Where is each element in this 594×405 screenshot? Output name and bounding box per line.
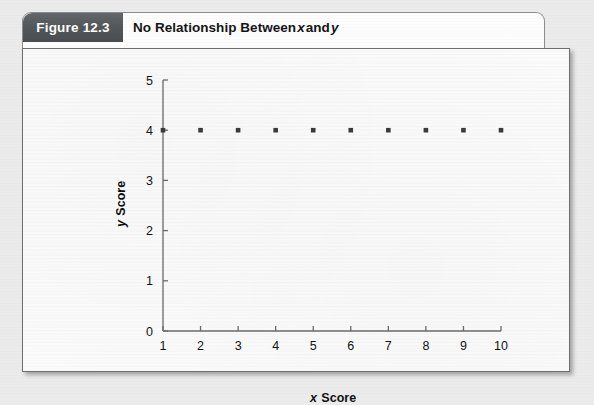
x-tick-label: 8 — [422, 339, 429, 353]
y-tick-label: 1 — [146, 274, 153, 288]
figure-number-chip: Figure 12.3 — [23, 13, 123, 42]
figure-title-variable-x: x — [296, 20, 306, 35]
x-tick-label: 6 — [347, 339, 354, 353]
figure-title-conjunction: and — [306, 20, 330, 35]
data-point-marker — [424, 128, 429, 133]
data-point-marker — [236, 128, 241, 133]
y-axis-label-variable: y — [114, 219, 128, 227]
figure-body: 012345 12345678910 y Score x Score — [22, 48, 570, 372]
data-point-marker — [161, 128, 166, 133]
x-tick-label: 5 — [310, 339, 317, 353]
y-tick-label: 5 — [146, 74, 153, 88]
figure-title-variable-y: y — [330, 20, 340, 35]
x-tick-label: 1 — [160, 339, 167, 353]
data-point-marker — [499, 128, 504, 133]
x-tick-label: 4 — [272, 339, 279, 353]
y-tick-label: 4 — [146, 124, 153, 138]
x-tick-label: 3 — [235, 339, 242, 353]
data-point-marker — [386, 128, 391, 133]
data-point-marker — [348, 128, 353, 133]
x-tick-label: 2 — [197, 339, 204, 353]
y-tick-label: 3 — [146, 174, 153, 188]
x-tick-label: 7 — [385, 339, 392, 353]
figure-card: Figure 12.3 No Relationship Between x an… — [22, 12, 570, 372]
x-axis-ticks: 12345678910 — [160, 326, 508, 353]
y-axis-label-text: Score — [114, 181, 128, 219]
y-tick-label: 2 — [146, 224, 153, 238]
data-markers — [161, 128, 504, 133]
x-axis-label: x Score — [310, 391, 356, 405]
x-tick-label: 9 — [460, 339, 467, 353]
x-tick-label: 10 — [494, 339, 508, 353]
scatter-plot: 012345 12345678910 y Score x Score — [23, 49, 571, 373]
figure-title: No Relationship Between x and y — [133, 13, 339, 42]
data-point-marker — [461, 128, 466, 133]
y-tick-label: 0 — [146, 325, 153, 339]
figure-number-label: Figure 12.3 — [36, 20, 109, 35]
data-point-marker — [273, 128, 278, 133]
data-point-marker — [198, 128, 203, 133]
x-axis-label-variable: x — [310, 391, 318, 405]
x-axis-label-text: Score — [318, 391, 356, 405]
figure-title-prefix: No Relationship Between — [133, 20, 296, 35]
data-point-marker — [311, 128, 316, 133]
y-axis-label: y Score — [81, 196, 161, 212]
